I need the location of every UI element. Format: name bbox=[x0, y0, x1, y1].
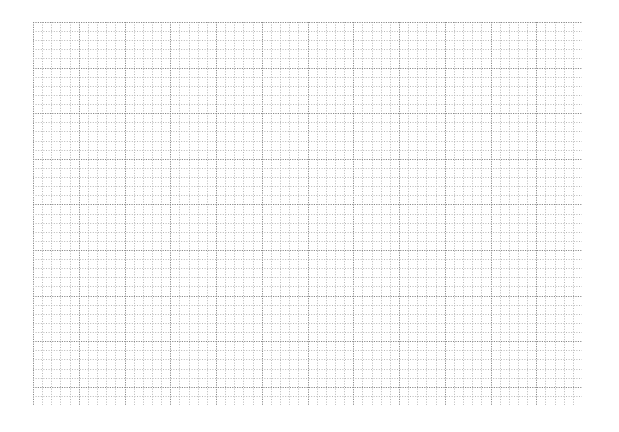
graph-paper-grid bbox=[33, 22, 582, 405]
grid-lines bbox=[33, 22, 582, 405]
